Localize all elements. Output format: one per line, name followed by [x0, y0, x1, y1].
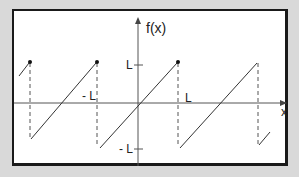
y-axis-label: f(x) — [146, 22, 166, 34]
tick-label-neg-L-x: - L — [82, 90, 96, 102]
x-axis-label: x — [281, 106, 287, 118]
discontinuity-lines — [30, 63, 258, 147]
tick-label-neg-L-y: - L — [119, 143, 133, 155]
tick-label-L-x: L — [185, 92, 192, 104]
sawtooth-ramps — [19, 63, 270, 148]
y-axis-arrow-icon — [135, 17, 141, 24]
endpoint-dots — [28, 60, 180, 64]
tick-label-L-y: L — [126, 59, 133, 71]
